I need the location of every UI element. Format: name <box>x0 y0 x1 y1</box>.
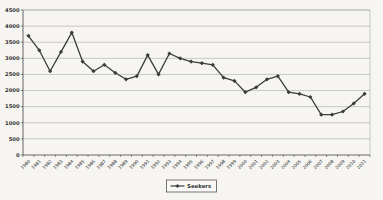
y-axis-label: 4500 <box>5 7 20 13</box>
y-axis-label: 500 <box>9 136 20 142</box>
y-axis-label: 1500 <box>5 103 20 109</box>
line-chart-panel: 0500100015002000250030003500400045001980… <box>0 0 383 200</box>
y-axis-label: 3000 <box>5 55 20 61</box>
y-axis-label: 3500 <box>5 39 20 45</box>
y-axis-label: 2500 <box>5 71 20 77</box>
y-axis-label: 1000 <box>5 120 20 126</box>
legend-label: Seekers <box>187 183 211 189</box>
seekers-line-chart: 0500100015002000250030003500400045001980… <box>0 0 383 200</box>
y-axis-label: 0 <box>16 152 20 158</box>
y-axis-label: 4000 <box>5 23 20 29</box>
y-axis-label: 2000 <box>5 87 20 93</box>
